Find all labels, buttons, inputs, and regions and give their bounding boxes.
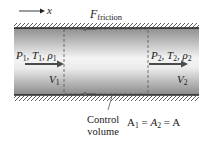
top-wall-hatch: [14, 23, 199, 28]
outlet-velocity-label: V2: [177, 74, 188, 87]
x-axis-arrow-icon: [19, 9, 45, 14]
inlet-velocity-label: V1: [49, 74, 60, 87]
friction-force-label: Ffriction: [90, 8, 122, 23]
outlet-state-label: P2, T2, ρ2: [151, 50, 192, 63]
control-volume-label: Control volume: [87, 114, 119, 138]
duct-flow-diagram: x Ffriction P1, T1, ρ1 V1 P2, T2, ρ2 V2 …: [0, 0, 211, 142]
x-axis-label: x: [47, 5, 52, 16]
control-volume-line1: Control: [87, 114, 119, 126]
area-relation-label: A1 = A2 = A: [127, 117, 180, 130]
inlet-state-label: P1, T1, ρ1: [16, 50, 57, 63]
bottom-wall-hatch: [14, 96, 199, 101]
control-volume-line2: volume: [87, 126, 119, 138]
